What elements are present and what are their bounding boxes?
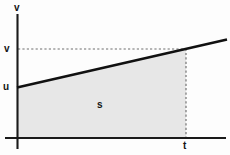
initial-velocity-label: u: [3, 82, 9, 92]
area-label: s: [97, 100, 103, 110]
final-velocity-label: v: [4, 44, 10, 54]
time-label: t: [183, 141, 186, 151]
shaded-area-s: [18, 49, 186, 137]
velocity-time-figure: v v u s t: [0, 0, 230, 155]
y-axis-label: v: [14, 3, 20, 13]
figure-canvas: [0, 0, 230, 155]
